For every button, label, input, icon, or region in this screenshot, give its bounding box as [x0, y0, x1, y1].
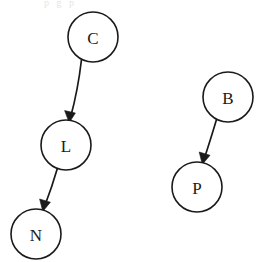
node-n-label: N [30, 226, 42, 245]
node-p[interactable]: P [172, 162, 222, 212]
directed-graph: C L N B P [0, 0, 263, 262]
edge-c-to-l-line [71, 60, 82, 118]
node-l[interactable]: L [41, 120, 91, 170]
node-n[interactable]: N [11, 209, 61, 259]
node-p-label: P [192, 179, 201, 198]
node-b-label: B [222, 89, 233, 108]
node-b[interactable]: B [203, 72, 253, 122]
edge-b-to-p [199, 120, 216, 165]
node-c-label: C [87, 29, 98, 48]
edge-l-to-n [40, 168, 58, 211]
edge-c-to-l [65, 60, 82, 123]
node-c[interactable]: C [68, 12, 118, 62]
diagram-canvas: p g p C L N [0, 0, 263, 262]
edge-b-to-p-line [204, 120, 217, 160]
node-l-label: L [61, 137, 71, 156]
